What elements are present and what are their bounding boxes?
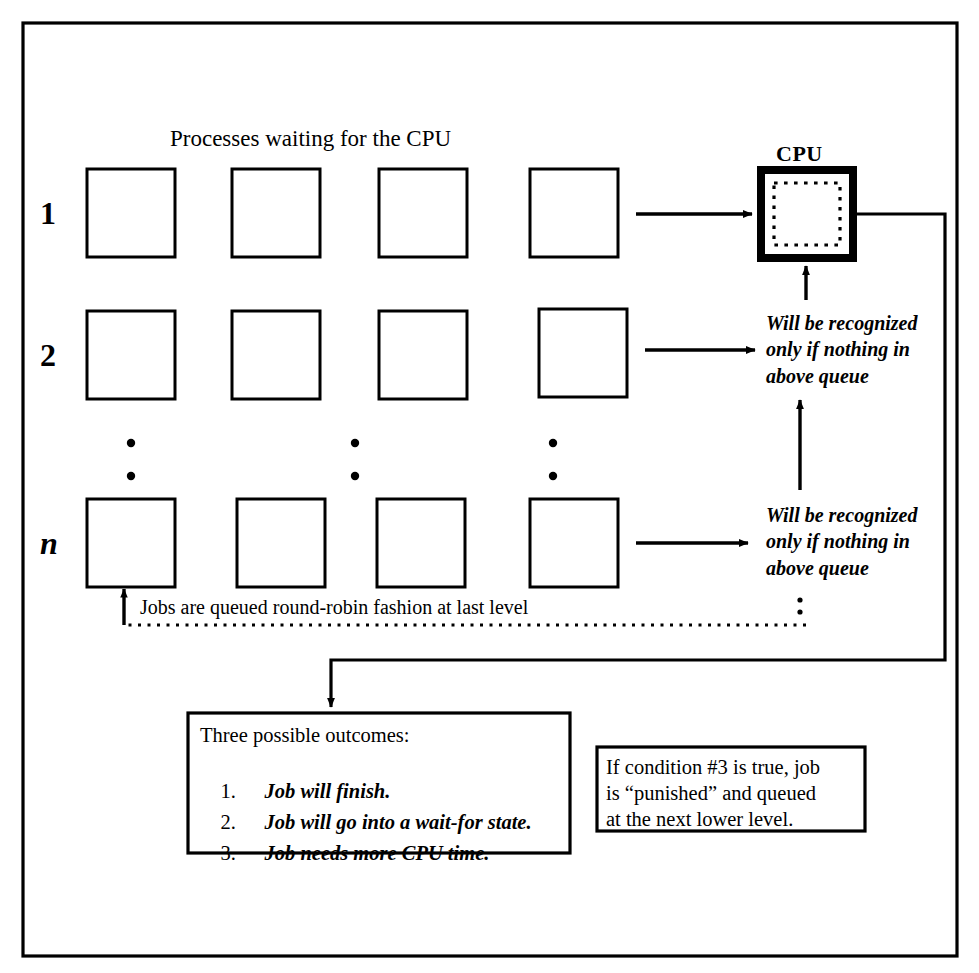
- outcomes-heading: Three possible outcomes:: [200, 723, 410, 747]
- outcome-number: 3.: [221, 840, 265, 867]
- process-box: [530, 499, 618, 587]
- ellipsis-dot: [797, 609, 802, 614]
- page-title: Processes waiting for the CPU: [170, 125, 451, 152]
- process-box: [530, 169, 618, 257]
- process-box: [379, 169, 467, 257]
- queue-note-1: Will be recognized only if nothing in ab…: [766, 310, 917, 389]
- ellipsis-dot: [127, 439, 135, 447]
- queue-row-2-boxes: [87, 309, 627, 399]
- ellipsis-dot: [797, 597, 802, 602]
- process-box: [232, 311, 320, 399]
- ellipsis-dots: [127, 439, 557, 480]
- process-box: [87, 311, 175, 399]
- diagram-canvas: Processes waiting for the CPU 1 2 n CPU …: [0, 0, 979, 973]
- queue-row-n-boxes: [87, 499, 618, 587]
- ellipsis-dot: [351, 439, 359, 447]
- process-box: [87, 499, 175, 587]
- cpu-label: CPU: [776, 141, 823, 167]
- outcome-text: Job needs more CPU time.: [265, 842, 490, 864]
- queue-row-1-boxes: [87, 169, 618, 257]
- ellipsis-dot: [127, 472, 135, 480]
- round-robin-label: Jobs are queued round-robin fashion at l…: [140, 596, 528, 620]
- process-box: [539, 309, 627, 397]
- queue-note-2: Will be recognized only if nothing in ab…: [766, 502, 917, 581]
- row-label-n: n: [40, 525, 58, 563]
- process-box: [87, 169, 175, 257]
- process-box: [232, 169, 320, 257]
- ellipsis-dot: [549, 472, 557, 480]
- row-label-1: 1: [40, 195, 56, 233]
- punish-line-2: is “punished” and queued: [606, 780, 816, 807]
- punish-line-3: at the next lower level.: [606, 806, 793, 833]
- outcome-item: 3.Job needs more CPU time.: [200, 813, 489, 893]
- process-box: [379, 311, 467, 399]
- process-box: [377, 499, 465, 587]
- ellipsis-dot: [351, 472, 359, 480]
- punish-line-1: If condition #3 is true, job: [606, 754, 820, 781]
- note-ellipsis-dots: [797, 597, 802, 614]
- cpu-output-path: [331, 214, 945, 707]
- ellipsis-dot: [549, 439, 557, 447]
- process-box: [237, 499, 325, 587]
- row-label-2: 2: [40, 337, 56, 375]
